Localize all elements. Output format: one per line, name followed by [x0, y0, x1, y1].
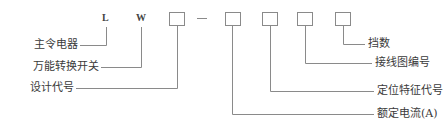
rated-current-box — [226, 13, 241, 26]
wiring-box — [298, 13, 313, 26]
label-wiring-diagram-number: 接线图编号 — [375, 57, 430, 69]
code-letter-w: W — [136, 12, 146, 24]
label-positioning-code: 定位特征代号 — [377, 85, 443, 97]
code-letter-l: L — [102, 12, 109, 24]
design-code-box — [170, 13, 185, 26]
label-design-code: 设计代号 — [30, 82, 74, 94]
label-rated-current: 额定电流(A) — [377, 108, 438, 120]
label-universal-switch: 万能转换开关 — [33, 61, 99, 73]
positions-box — [336, 13, 351, 26]
label-main-controller: 主令电器 — [34, 39, 78, 51]
positioning-box — [263, 13, 278, 26]
label-positions: 挡数 — [368, 38, 390, 50]
